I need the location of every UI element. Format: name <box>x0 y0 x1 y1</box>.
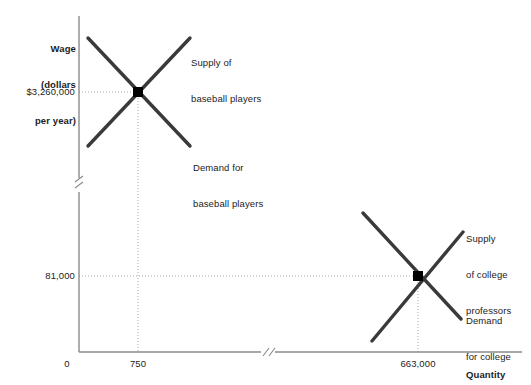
equilibrium-marker-college[interactable] <box>413 271 423 281</box>
annotation-supply-college-line2: of college <box>466 269 531 281</box>
annotation-demand-college: Demand for college professors <box>466 291 531 385</box>
annotation-demand-college-line2: for college <box>466 351 531 363</box>
annotation-demand-baseball-line1: Demand for <box>193 162 303 174</box>
annotation-supply-baseball: Supply of baseball players <box>191 33 301 129</box>
annotation-demand-baseball-line2: baseball players <box>193 198 303 210</box>
equilibrium-marker-baseball[interactable] <box>133 87 143 97</box>
annotation-supply-baseball-line2: baseball players <box>191 93 301 105</box>
annotation-demand-baseball: Demand for baseball players <box>193 138 303 234</box>
market-college-curves <box>363 213 463 341</box>
y-tick-label-81000: 81,000 <box>0 270 75 282</box>
x-tick-label-663000: 663,000 <box>388 358 448 370</box>
chart-canvas: Wage (dollars per year) $3,260,000 81,00… <box>0 0 531 385</box>
gridlines-baseball <box>79 92 138 352</box>
x-tick-label-origin: 0 <box>57 358 77 370</box>
annotation-supply-baseball-line1: Supply of <box>191 57 301 69</box>
y-axis-title: Wage (dollars per year) <box>0 19 76 151</box>
gridlines-college <box>79 276 418 352</box>
demand-curve-college[interactable] <box>363 213 461 319</box>
x-tick-label-750: 750 <box>118 358 158 370</box>
y-axis-title-line1: Wage <box>0 43 76 55</box>
x-axis-break-icon <box>263 348 275 356</box>
y-axis-title-line3: per year) <box>0 115 76 127</box>
y-tick-label-3260000: $3,260,000 <box>0 86 75 98</box>
annotation-demand-college-line1: Demand <box>466 315 531 327</box>
annotation-supply-college-line1: Supply <box>466 233 531 245</box>
